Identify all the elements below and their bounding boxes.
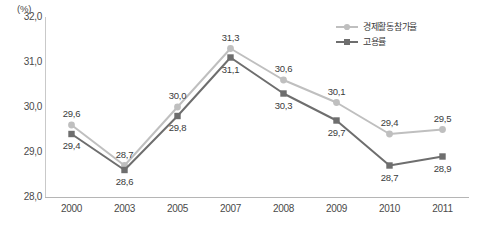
data-point-label: 28,7 <box>381 172 398 183</box>
data-point-label: 29,7 <box>328 127 345 138</box>
legend-square-marker-icon <box>336 37 358 47</box>
legend-label-participation: 경제활동참가율 <box>363 20 417 33</box>
data-point-label: 28,9 <box>434 163 451 174</box>
data-point-label: 30,1 <box>328 86 345 97</box>
data-point-marker[interactable] <box>439 153 445 159</box>
data-point-marker[interactable] <box>227 54 233 60</box>
chart-container: (%) 28,029,030,031,032,0 200020032005200… <box>0 0 477 234</box>
data-point-marker[interactable] <box>386 131 393 138</box>
data-point-marker[interactable] <box>68 131 74 137</box>
legend-label-employment: 고용률 <box>363 35 386 48</box>
data-point-label: 29,6 <box>63 108 80 119</box>
data-point-marker[interactable] <box>174 113 180 119</box>
data-point-label: 30,6 <box>275 63 292 74</box>
data-point-marker[interactable] <box>386 162 392 168</box>
data-point-label: 31,3 <box>222 32 239 43</box>
data-point-label: 29,8 <box>169 122 186 133</box>
data-point-label: 31,1 <box>222 64 239 75</box>
chart-legend: 경제활동참가율 고용률 <box>336 20 417 50</box>
data-point-marker[interactable] <box>333 117 339 123</box>
data-point-marker[interactable] <box>121 167 127 173</box>
data-point-marker[interactable] <box>174 104 181 111</box>
data-point-marker[interactable] <box>280 77 287 84</box>
data-point-marker[interactable] <box>333 99 340 106</box>
data-point-label: 29,4 <box>63 140 80 151</box>
data-point-marker[interactable] <box>68 122 75 129</box>
data-point-label: 30,3 <box>275 100 292 111</box>
data-point-label: 28,7 <box>116 149 133 160</box>
legend-item-employment[interactable]: 고용률 <box>336 35 417 48</box>
legend-circle-marker-icon <box>336 22 358 32</box>
data-point-marker[interactable] <box>227 45 234 52</box>
data-point-label: 30,0 <box>169 90 186 101</box>
data-point-marker[interactable] <box>439 126 446 133</box>
data-point-label: 29,4 <box>381 117 398 128</box>
data-point-marker[interactable] <box>280 90 286 96</box>
legend-item-participation[interactable]: 경제활동참가율 <box>336 20 417 33</box>
data-point-label: 29,5 <box>434 113 451 124</box>
data-point-label: 28,6 <box>116 176 133 187</box>
